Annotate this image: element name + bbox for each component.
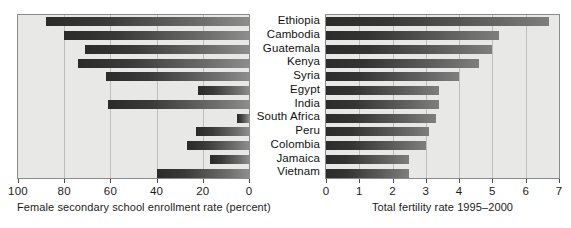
axis-tick-label: 60	[104, 186, 117, 198]
bar-row	[18, 114, 249, 123]
bar-peru	[326, 127, 429, 136]
axis-tick	[326, 179, 327, 183]
axis-tick	[459, 179, 460, 183]
bar-kenya	[326, 59, 479, 68]
bar-colombia	[187, 141, 249, 150]
axis-tick	[359, 179, 360, 183]
axis-tick	[426, 179, 427, 183]
bar-row	[18, 31, 249, 40]
bar-south-africa	[326, 114, 436, 123]
axis-tick	[203, 179, 204, 183]
axis-tick-label: 2	[389, 186, 396, 198]
bar-row	[18, 45, 249, 54]
bar-jamaica	[210, 155, 249, 164]
bar-jamaica	[326, 155, 409, 164]
axis-tick-label: 7	[556, 186, 563, 198]
category-label-colombia: Colombia	[252, 139, 320, 151]
category-label-jamaica: Jamaica	[252, 153, 320, 165]
bar-guatemala	[85, 45, 249, 54]
axis-tick	[157, 179, 158, 183]
bar-row	[326, 169, 559, 178]
bar-row	[326, 86, 559, 95]
category-label-india: India	[252, 98, 320, 110]
category-label-kenya: Kenya	[252, 56, 320, 68]
axis-title-enrollment: Female secondary school enrollment rate …	[17, 201, 250, 213]
bar-row	[18, 100, 249, 109]
bar-colombia	[326, 141, 426, 150]
axis-tick-label: 100	[8, 186, 28, 198]
category-label-ethiopia: Ethiopia	[252, 15, 320, 27]
category-label-guatemala: Guatemala	[252, 43, 320, 55]
category-label-vietnam: Vietnam	[252, 166, 320, 178]
bar-syria	[326, 72, 459, 81]
axis-tick	[526, 179, 527, 183]
bar-vietnam	[157, 169, 249, 178]
bar-row	[326, 72, 559, 81]
panel-fertility	[325, 14, 560, 179]
axis-tick	[559, 179, 560, 183]
axis-tick-label: 20	[196, 186, 209, 198]
axis-tick	[64, 179, 65, 183]
bar-row	[18, 155, 249, 164]
bar-row	[326, 100, 559, 109]
axis-tick	[110, 179, 111, 183]
axis-tick-label: 40	[150, 186, 163, 198]
axis-title-fertility: Total fertility rate 1995–2000	[325, 201, 560, 213]
bar-ethiopia	[326, 17, 549, 26]
plot-area-enrollment	[17, 14, 250, 179]
bar-row	[326, 17, 559, 26]
bar-peru	[196, 127, 249, 136]
bar-row	[326, 45, 559, 54]
axis-tick-label: 0	[246, 186, 253, 198]
bar-row	[18, 72, 249, 81]
bar-row	[18, 17, 249, 26]
axis-tick	[18, 179, 19, 183]
category-label-peru: Peru	[252, 125, 320, 137]
axis-tick-label: 5	[489, 186, 496, 198]
bar-egypt	[326, 86, 439, 95]
category-label-cambodia: Cambodia	[252, 29, 320, 41]
bar-cambodia	[64, 31, 249, 40]
axis-tick-label: 4	[456, 186, 463, 198]
category-label-egypt: Egypt	[252, 84, 320, 96]
bar-row	[18, 59, 249, 68]
axis-tick	[393, 179, 394, 183]
bar-india	[108, 100, 249, 109]
bar-row	[326, 31, 559, 40]
bar-row	[18, 86, 249, 95]
axis-tick-label: 1	[356, 186, 363, 198]
bar-ethiopia	[46, 17, 249, 26]
bar-row	[18, 141, 249, 150]
bar-india	[326, 100, 439, 109]
category-label-syria: Syria	[252, 70, 320, 82]
bar-cambodia	[326, 31, 499, 40]
bar-syria	[106, 72, 249, 81]
axis-tick	[249, 179, 250, 183]
bar-row	[326, 114, 559, 123]
category-label-south-africa: South Africa	[252, 111, 320, 123]
dual-bar-chart-figure: Female secondary school enrollment rate …	[0, 0, 571, 228]
bar-vietnam	[326, 169, 409, 178]
panel-enrollment	[17, 14, 250, 179]
bar-row	[18, 127, 249, 136]
axis-tick-label: 80	[58, 186, 71, 198]
bar-guatemala	[326, 45, 492, 54]
bar-kenya	[78, 59, 249, 68]
bar-row	[326, 59, 559, 68]
category-label-column: EthiopiaCambodiaGuatemalaKenyaSyriaEgypt…	[252, 14, 324, 179]
axis-tick-label: 6	[522, 186, 529, 198]
plot-area-fertility	[325, 14, 560, 179]
bar-south-africa	[237, 114, 249, 123]
bar-row	[326, 141, 559, 150]
bar-row	[18, 169, 249, 178]
bar-row	[326, 127, 559, 136]
axis-tick	[492, 179, 493, 183]
bar-row	[326, 155, 559, 164]
axis-tick-label: 0	[323, 186, 330, 198]
bar-egypt	[198, 86, 249, 95]
axis-tick-label: 3	[423, 186, 430, 198]
